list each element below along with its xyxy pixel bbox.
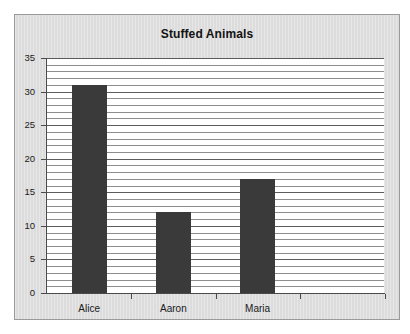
x-axis-label: Alice (47, 303, 131, 314)
bar[interactable] (240, 179, 275, 293)
y-axis-tick (41, 192, 47, 193)
plot-area (47, 58, 384, 293)
x-axis-tick (216, 294, 217, 299)
y-axis-tick (41, 293, 47, 294)
x-axis-label: Maria (216, 303, 300, 314)
x-axis-end-tick (385, 294, 386, 299)
y-axis-label: 25 (9, 119, 35, 130)
x-axis-tick (131, 294, 132, 299)
y-axis-label: 35 (9, 52, 35, 63)
y-axis-tick (41, 125, 47, 126)
chart-frame: Stuffed Animals 05101520253035 AliceAaro… (14, 14, 400, 320)
y-axis-tick (41, 92, 47, 93)
y-axis-label: 10 (9, 220, 35, 231)
y-axis-label: 0 (9, 287, 35, 298)
y-axis-label: 30 (9, 86, 35, 97)
chart-title: Stuffed Animals (15, 27, 399, 41)
bar[interactable] (72, 85, 107, 293)
y-axis-label: 15 (9, 186, 35, 197)
x-axis-tick (300, 294, 301, 299)
x-axis-label: Aaron (131, 303, 215, 314)
y-axis-tick (41, 259, 47, 260)
y-axis-label: 20 (9, 153, 35, 164)
bar[interactable] (156, 212, 191, 293)
y-axis-tick (41, 159, 47, 160)
y-axis-tick (41, 226, 47, 227)
y-axis-tick (41, 58, 47, 59)
y-axis-label: 5 (9, 253, 35, 264)
